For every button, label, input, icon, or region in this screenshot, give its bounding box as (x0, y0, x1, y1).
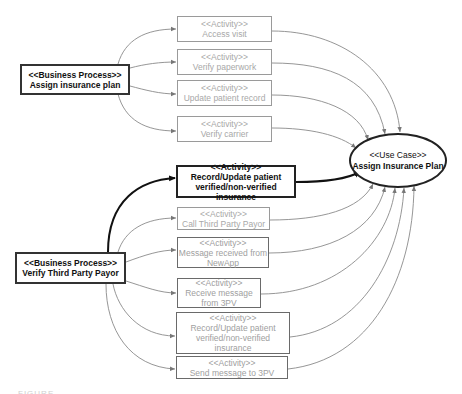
stereotype-label: <<Activity>> (201, 52, 248, 62)
stereotype-label: <<Activity>> (200, 209, 247, 219)
activity-record-update-insurance-secondary[interactable]: <<Activity>> Record/Update patient verif… (176, 312, 290, 354)
activity-verify-carrier[interactable]: <<Activity>> Verify carrier (177, 116, 272, 142)
activity-usecase-connectors-top (272, 31, 400, 148)
record-update-to-usecase-connector (296, 172, 360, 182)
activity-send-message-to-3pv[interactable]: <<Activity>> Send message to 3PV (176, 356, 288, 379)
stereotype-label: <<Business Process>> (28, 70, 121, 80)
stereotype-label: <<Activity>> (210, 313, 257, 323)
stereotype-label: <<Activity>> (201, 119, 248, 129)
process-name: Verify Third Party Payor (22, 268, 118, 278)
activity-name-line: Receive message (185, 288, 253, 298)
activity-name: Update patient record (184, 93, 266, 103)
bp2-connectors (106, 218, 176, 369)
activity-receive-message-from-3pv[interactable]: <<Activity>> Receive message from 3PV (177, 278, 261, 308)
stereotype-label: <<Use Case>> (369, 150, 426, 161)
stereotype-label: <<Activity>> (209, 358, 256, 368)
activity-verify-paperwork[interactable]: <<Activity>> Verify paperwork (177, 49, 272, 75)
business-process-assign-insurance-plan[interactable]: <<Business Process>> Assign insurance pl… (20, 64, 130, 95)
use-case-name: Assign Insurance Plan (352, 161, 443, 172)
activity-call-third-party-payor[interactable]: <<Activity>> Call Third Party Payor (177, 207, 270, 230)
activity-name: Verify paperwork (193, 62, 256, 72)
activity-message-received-from-newapp[interactable]: <<Activity>> Message received from NewAp… (177, 237, 269, 268)
stereotype-label: <<Activity>> (211, 162, 262, 172)
activity-name-line: verified/non-verified (196, 333, 270, 343)
activity-update-patient-record[interactable]: <<Activity>> Update patient record (177, 80, 272, 106)
activity-name-line: verified/non-verified insurance (178, 182, 294, 202)
activity-access-visit[interactable]: <<Activity>> Access visit (177, 16, 272, 42)
stereotype-label: <<Activity>> (200, 238, 247, 248)
activity-name: Access visit (202, 29, 246, 39)
activity-name-line: Record/Update patient (191, 172, 282, 182)
activity-name: Verify carrier (201, 129, 249, 139)
activity-name-line: Message received from (179, 248, 267, 258)
bp2-to-record-update-connector (108, 178, 175, 252)
activity-name-line: Record/Update patient (190, 323, 275, 333)
activity-name: Send message to 3PV (190, 368, 275, 378)
stereotype-label: <<Activity>> (201, 83, 248, 93)
activity-record-update-insurance-primary[interactable]: <<Activity>> Record/Update patient verif… (176, 165, 296, 198)
stereotype-label: <<Activity>> (196, 278, 243, 288)
figure-caption: FIGURE (18, 387, 54, 394)
uml-diagram: <<Business Process>> Assign insurance pl… (0, 0, 462, 394)
activity-name: Call Third Party Payor (182, 219, 265, 229)
process-name: Assign insurance plan (30, 80, 121, 90)
activity-name-line: insurance (215, 343, 252, 353)
activity-name-line: NewApp (207, 258, 239, 268)
stereotype-label: <<Activity>> (201, 19, 248, 29)
stereotype-label: <<Business Process>> (24, 258, 117, 268)
activity-name-line: from 3PV (201, 298, 236, 308)
business-process-verify-third-party-payor[interactable]: <<Business Process>> Verify Third Party … (15, 252, 126, 284)
use-case-assign-insurance-plan[interactable]: <<Use Case>> Assign Insurance Plan (349, 133, 447, 188)
